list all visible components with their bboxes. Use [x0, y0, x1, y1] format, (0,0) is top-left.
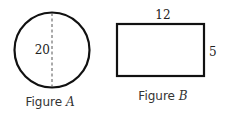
figure-a: 20 Figure A: [15, 13, 90, 110]
width-label: 12: [155, 8, 170, 22]
figure-b: 12 5 Figure B: [117, 8, 217, 103]
figure-a-caption: Figure A: [25, 95, 74, 109]
figures-diagram: 20 Figure A 12 5 Figure B: [0, 0, 227, 115]
height-label: 5: [209, 45, 217, 59]
diameter-label: 20: [35, 43, 50, 57]
rectangle-shape: [117, 24, 204, 76]
figure-b-caption: Figure B: [138, 89, 187, 103]
